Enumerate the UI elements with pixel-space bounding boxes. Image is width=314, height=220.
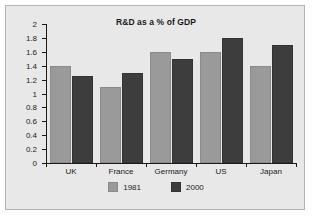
y-axis-tick-label: 1 (33, 89, 37, 98)
legend-label-1981: 1981 (123, 183, 141, 192)
chart-canvas: R&D as a % of GDP 00.20.40.60.811.21.41.… (6, 6, 304, 209)
bar-group (248, 24, 298, 163)
y-axis-tick-label: 0.2 (26, 145, 37, 154)
y-axis-tick: 1.2 (42, 80, 46, 81)
bar-germany-2000 (172, 59, 193, 163)
x-axis-label-us: US (194, 167, 248, 176)
bar-japan-2000 (272, 45, 293, 163)
bar-group (198, 24, 248, 163)
legend-swatch-1981 (108, 182, 118, 192)
y-axis-tick: 1.4 (42, 66, 46, 67)
y-axis-tick-label: 0.4 (26, 131, 37, 140)
y-axis-tick: 0.4 (42, 135, 46, 136)
x-axis-label-germany: Germany (144, 167, 198, 176)
y-axis-tick-label: 1.4 (26, 61, 37, 70)
y-axis-tick-label: 1.8 (26, 33, 37, 42)
bar-japan-1981 (250, 66, 271, 163)
y-axis-tick: 0.2 (42, 149, 46, 150)
legend-label-2000: 2000 (186, 183, 204, 192)
bar-group (148, 24, 198, 163)
y-axis-tick-label: 1.2 (26, 75, 37, 84)
bar-france-2000 (122, 73, 143, 163)
bar-uk-1981 (50, 66, 71, 163)
y-axis-tick-label: 0.8 (26, 103, 37, 112)
x-axis-label-france: France (94, 167, 148, 176)
y-axis-tick-label: 1.6 (26, 47, 37, 56)
bar-france-1981 (100, 87, 121, 163)
legend-item-1981[interactable]: 1981 (108, 182, 141, 192)
legend-swatch-2000 (171, 182, 181, 192)
plot-area: 00.20.40.60.811.21.41.61.82 UKFranceGerm… (46, 24, 296, 163)
x-axis-line (46, 163, 296, 164)
chart-frame: R&D as a % of GDP 00.20.40.60.811.21.41.… (5, 5, 305, 210)
y-axis-tick-label: 0.6 (26, 117, 37, 126)
bar-germany-1981 (150, 52, 171, 163)
legend-item-2000[interactable]: 2000 (171, 182, 204, 192)
bar-us-1981 (200, 52, 221, 163)
x-axis-label-uk: UK (44, 167, 98, 176)
bar-group (98, 24, 148, 163)
bar-uk-2000 (72, 76, 93, 163)
y-axis-tick: 1.6 (42, 52, 46, 53)
y-axis-line (46, 24, 47, 163)
y-axis-tick: 2 (42, 24, 46, 25)
y-axis-tick: 1.8 (42, 38, 46, 39)
x-axis-label-japan: Japan (244, 167, 298, 176)
y-axis-tick-label: 0 (33, 159, 37, 168)
bar-group (48, 24, 98, 163)
y-axis-tick: 1 (42, 94, 46, 95)
chart-legend: 19812000 (51, 182, 261, 192)
y-axis-tick: 0.6 (42, 121, 46, 122)
y-axis-tick-label: 2 (33, 20, 37, 29)
bar-us-2000 (222, 38, 243, 163)
y-axis-tick: 0.8 (42, 107, 46, 108)
